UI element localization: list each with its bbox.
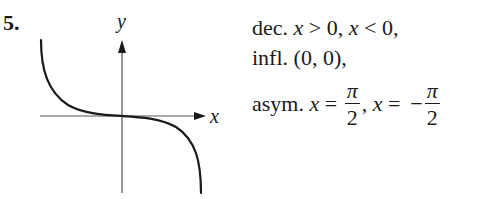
- y-axis-label: y: [117, 11, 126, 31]
- equals-sign: =: [319, 93, 342, 115]
- dec-prefix: dec.: [252, 15, 294, 40]
- fraction-denominator: 2: [427, 104, 438, 129]
- asym-prefix: asym.: [252, 93, 309, 115]
- y-axis-arrow-icon: [118, 40, 126, 53]
- inflection-point-line: infl. (0, 0),: [252, 47, 347, 69]
- var-x: x: [309, 93, 319, 115]
- var-x: x: [294, 15, 304, 40]
- inflection-text: infl. (0, 0),: [252, 45, 347, 70]
- fraction-numerator: π: [425, 79, 440, 104]
- equals-minus-sign: = −: [382, 93, 422, 115]
- fraction-denominator: 2: [347, 104, 358, 129]
- fraction-pi-over-2: π 2: [345, 79, 360, 129]
- function-graph: y x: [0, 0, 250, 199]
- var-x: x: [373, 93, 383, 115]
- decreasing-interval-line: dec. x > 0, x < 0,: [252, 17, 398, 39]
- separator: ,: [362, 93, 373, 115]
- rel-less: < 0,: [358, 15, 398, 40]
- x-axis-arrow-icon: [194, 112, 206, 120]
- asymptote-line: asym. x = π 2 , x = − π 2: [252, 79, 442, 129]
- x-axis-label: x: [210, 106, 219, 126]
- fraction-pi-over-2: π 2: [425, 79, 440, 129]
- fraction-numerator: π: [345, 79, 360, 104]
- rel-greater: > 0,: [303, 15, 348, 40]
